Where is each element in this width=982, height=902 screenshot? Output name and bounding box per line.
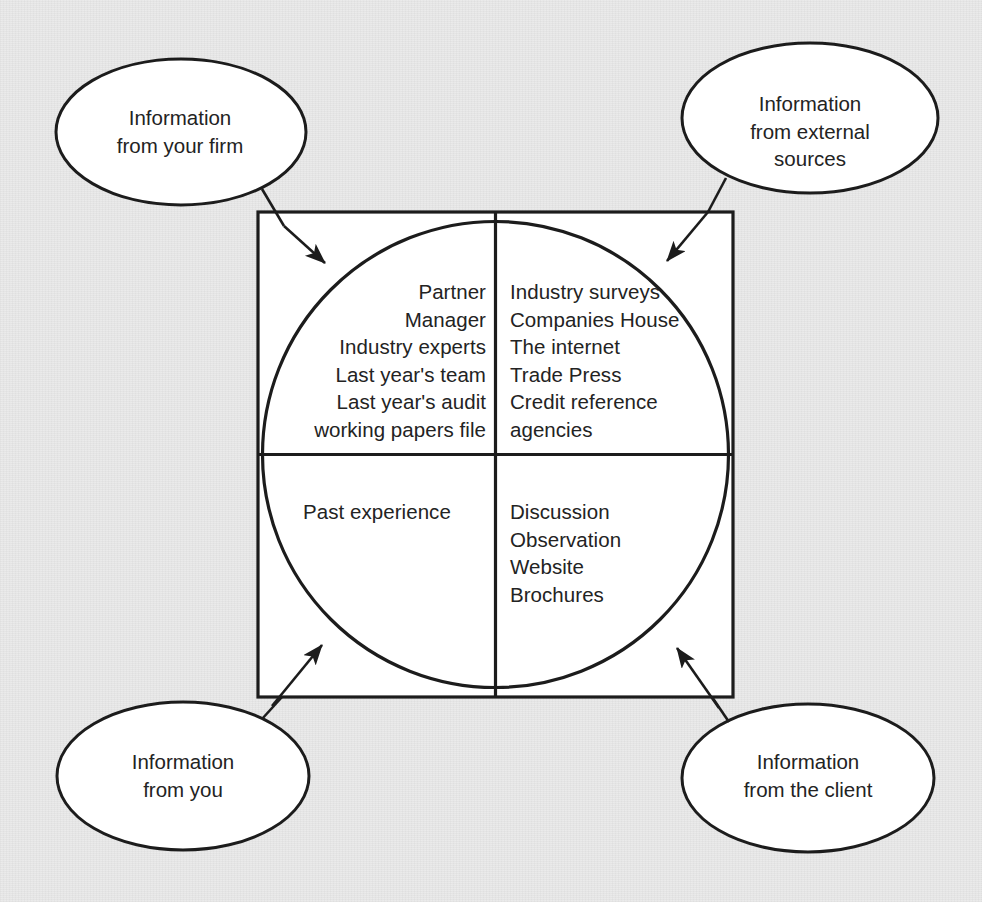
quadrant-text-top-right: Industry surveys Companies House The int… bbox=[510, 278, 725, 443]
diagram-vector-layer bbox=[0, 0, 982, 902]
quadrant-text-bottom-left: Past experience bbox=[268, 498, 486, 526]
bubble-external-sources[interactable] bbox=[682, 43, 938, 193]
connector-you bbox=[262, 697, 282, 719]
quadrant-text-bottom-right: Discussion Observation Website Brochures bbox=[510, 498, 725, 608]
bubble-your-firm[interactable] bbox=[56, 59, 306, 205]
bubble-client[interactable] bbox=[682, 704, 934, 852]
diagram-canvas: Partner Manager Industry experts Last ye… bbox=[0, 0, 982, 902]
quadrant-text-top-left: Partner Manager Industry experts Last ye… bbox=[268, 278, 486, 443]
bubble-you[interactable] bbox=[57, 702, 309, 850]
connector-external-sources bbox=[708, 178, 726, 212]
